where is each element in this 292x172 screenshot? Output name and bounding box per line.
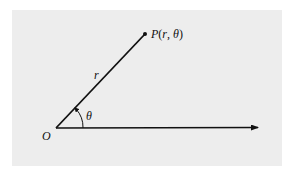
angle-label: θ xyxy=(86,109,92,123)
origin-label: O xyxy=(42,129,51,143)
angle-arc xyxy=(76,109,83,128)
radius-label: r xyxy=(94,68,99,82)
point-label: P(r, θ) xyxy=(150,27,183,41)
point-p xyxy=(143,32,147,36)
point-label-close: ) xyxy=(179,27,183,41)
radius-ray xyxy=(56,34,145,128)
polar-coordinate-diagram: O r θ P(r, θ) xyxy=(0,0,292,172)
polar-axis xyxy=(56,128,258,129)
